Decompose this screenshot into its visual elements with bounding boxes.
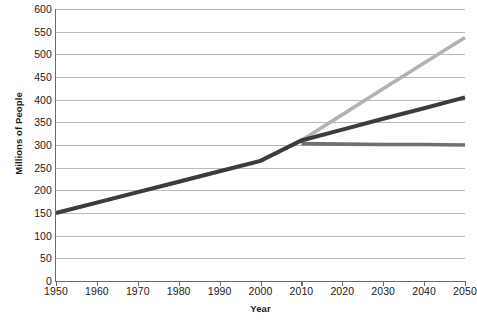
x-tick-label-2030: 2030 (371, 285, 395, 297)
plot-area (56, 9, 465, 281)
x-tick-label-1980: 1980 (167, 285, 191, 297)
x-tick-label-1950: 1950 (44, 285, 68, 297)
series-line-zero-growth-projection (301, 144, 465, 145)
y-tick-label-250: 250 (6, 162, 52, 174)
y-tick-label-500: 500 (6, 48, 52, 60)
y-tick-label-50: 50 (6, 252, 52, 264)
y-tick-label-600: 600 (6, 3, 52, 15)
y-tick-label-400: 400 (6, 94, 52, 106)
y-axis-tick-labels: 050100150200250300350400450500550600 (0, 0, 52, 321)
x-tick-label-1990: 1990 (208, 285, 232, 297)
x-tick-label-2050: 2050 (453, 285, 477, 297)
y-tick-label-200: 200 (6, 184, 52, 196)
y-tick-label-350: 350 (6, 116, 52, 128)
series-layer (56, 9, 465, 281)
y-tick-label-100: 100 (6, 230, 52, 242)
x-tick-label-1960: 1960 (85, 285, 109, 297)
x-axis-title: Year (56, 303, 465, 314)
y-tick-label-550: 550 (6, 26, 52, 38)
x-tick-label-2020: 2020 (330, 285, 354, 297)
y-tick-label-450: 450 (6, 71, 52, 83)
y-tick-label-300: 300 (6, 139, 52, 151)
y-tick-label-150: 150 (6, 207, 52, 219)
x-tick-label-1970: 1970 (126, 285, 150, 297)
series-line-medium-growth-projection (56, 97, 465, 213)
x-tick-label-2040: 2040 (412, 285, 436, 297)
series-line-high-growth-projection (56, 38, 465, 213)
x-tick-label-2010: 2010 (290, 285, 314, 297)
x-tick-label-2000: 2000 (249, 285, 273, 297)
